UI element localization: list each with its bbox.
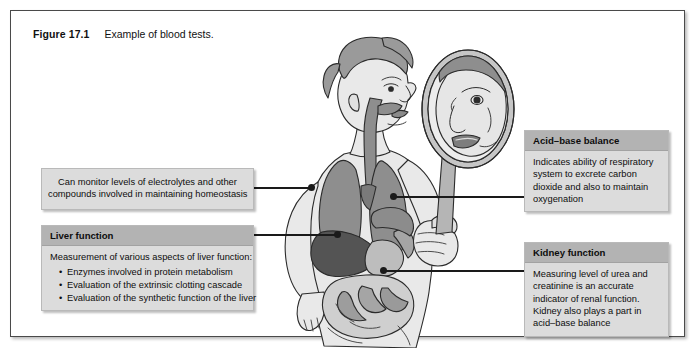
callout-homeostasis: Can monitor levels of electrolytes and o… — [41, 168, 254, 210]
callout-kidney-line-3: indicator of renal function. — [533, 293, 660, 305]
figure-frame: Figure 17.1 Example of blood tests. — [10, 10, 685, 337]
callout-acid-base-line-3: dioxide and also to maintain — [533, 181, 660, 193]
leader-line-liver — [254, 234, 339, 236]
callout-liver-bullet-3: Evaluation of the synthetic function of … — [59, 292, 245, 305]
callout-liver-bullet-2: Evaluation of the extrinsic clotting cas… — [59, 279, 245, 292]
callout-acid-base-body: Indicates ability of respiratory system … — [525, 151, 668, 211]
callout-acid-base-balance: Acid–base balance Indicates ability of r… — [524, 130, 669, 212]
leader-dot-lung — [390, 193, 397, 200]
callout-homeostasis-line-1: Can monitor levels of electrolytes and o… — [48, 176, 247, 188]
person-with-mirror-anatomy-illustration — [266, 36, 541, 348]
figure-caption-text: Example of blood tests. — [104, 28, 213, 40]
callout-liver-bullet-1: Enzymes involved in protein metabolism — [59, 266, 245, 279]
callout-liver-function: Liver function Measurement of various as… — [41, 225, 254, 311]
callout-liver-header: Liver function — [42, 226, 253, 246]
leader-dot-liver — [334, 231, 341, 238]
callout-kidney-line-4: Kidney also plays a part in — [533, 305, 660, 317]
callout-kidney-line-2: creatinine is an accurate — [533, 280, 660, 292]
leader-dot-kidney — [380, 267, 387, 274]
callout-acid-base-line-2: system to excrete carbon — [533, 168, 660, 180]
callout-liver-bullet-list: Enzymes involved in protein metabolism E… — [50, 266, 245, 304]
figure-label: Figure 17.1 — [33, 28, 90, 40]
callout-acid-base-header: Acid–base balance — [525, 131, 668, 151]
callout-kidney-line-1: Measuring level of urea and — [533, 268, 660, 280]
callout-kidney-header: Kidney function — [525, 243, 668, 263]
leader-line-kidney — [385, 270, 524, 272]
callout-homeostasis-line-2: compounds involved in maintaining homeos… — [48, 188, 247, 200]
figure-caption: Figure 17.1 Example of blood tests. — [33, 28, 214, 40]
callout-homeostasis-body: Can monitor levels of electrolytes and o… — [42, 169, 253, 209]
leader-line-acid-base — [395, 196, 524, 198]
callout-acid-base-line-1: Indicates ability of respiratory — [533, 156, 660, 168]
leader-line-homeostasis — [254, 187, 312, 189]
callout-kidney-function: Kidney function Measuring level of urea … — [524, 242, 669, 337]
callout-kidney-line-5: acid–base balance — [533, 317, 660, 329]
leader-dot-arm — [308, 184, 315, 191]
callout-acid-base-line-4: oxygenation — [533, 193, 660, 205]
callout-liver-intro: Measurement of various aspects of liver … — [50, 251, 245, 263]
callout-kidney-body: Measuring level of urea and creatinine i… — [525, 263, 668, 336]
callout-liver-body: Measurement of various aspects of liver … — [42, 246, 253, 310]
